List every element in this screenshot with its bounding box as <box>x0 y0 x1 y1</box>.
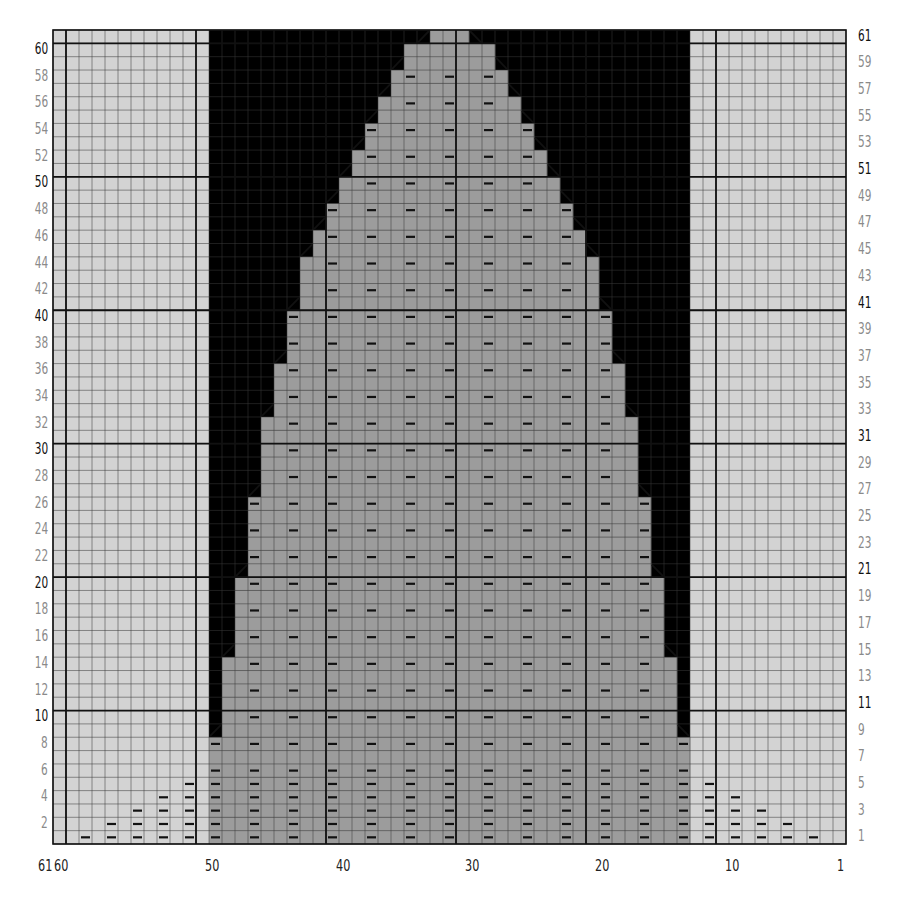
stitch-cell <box>508 350 521 364</box>
stitch-cell <box>664 831 677 845</box>
stitch-cell <box>391 244 404 258</box>
stitch-cell <box>521 163 534 177</box>
stitch-cell <box>378 244 391 258</box>
stitch-cell <box>352 617 365 631</box>
stitch-cell <box>326 751 339 765</box>
stitch-cell <box>521 457 534 471</box>
stitch-cell <box>235 791 248 805</box>
stitch-cell <box>339 644 352 658</box>
stitch-cell <box>261 657 274 671</box>
stitch-cell <box>430 324 443 338</box>
stitch-cell <box>326 324 339 338</box>
stitch-cell <box>573 284 586 298</box>
row-label-left: 60 <box>35 42 48 57</box>
stitch-cell <box>573 524 586 538</box>
stitch-cell <box>417 831 430 845</box>
stitch-cell <box>417 150 430 164</box>
stitch-cell <box>469 697 482 711</box>
stitch-cell <box>508 257 521 271</box>
stitch-cell <box>612 684 625 698</box>
stitch-cell <box>469 590 482 604</box>
stitch-cell <box>430 497 443 511</box>
stitch-cell <box>586 497 599 511</box>
stitch-cell <box>378 444 391 458</box>
stitch-cell <box>391 777 404 791</box>
stitch-cell <box>339 737 352 751</box>
stitch-cell <box>534 404 547 418</box>
stitch-cell <box>573 777 586 791</box>
stitch-cell <box>274 697 287 711</box>
stitch-cell <box>365 671 378 685</box>
stitch-cell <box>612 417 625 431</box>
stitch-cell <box>391 604 404 618</box>
stitch-cell <box>404 404 417 418</box>
stitch-cell <box>430 70 443 84</box>
stitch-cell <box>573 831 586 845</box>
stitch-cell <box>378 230 391 244</box>
stitch-cell <box>508 337 521 351</box>
stitch-cell <box>378 457 391 471</box>
stitch-cell <box>430 470 443 484</box>
stitch-cell <box>547 564 560 578</box>
stitch-cell <box>352 684 365 698</box>
stitch-cell <box>482 297 495 311</box>
stitch-cell <box>261 791 274 805</box>
stitch-cell <box>495 163 508 177</box>
stitch-cell <box>534 257 547 271</box>
stitch-cell <box>326 377 339 391</box>
stitch-cell <box>326 671 339 685</box>
stitch-cell <box>456 791 469 805</box>
stitch-cell <box>300 257 313 271</box>
stitch-cell <box>573 617 586 631</box>
stitch-cell <box>612 764 625 778</box>
stitch-cell <box>456 137 469 151</box>
stitch-cell <box>469 390 482 404</box>
stitch-cell <box>261 697 274 711</box>
stitch-cell <box>300 804 313 818</box>
stitch-cell <box>378 470 391 484</box>
stitch-cell <box>417 537 430 551</box>
stitch-cell <box>586 377 599 391</box>
stitch-cell <box>391 577 404 591</box>
stitch-cell <box>365 377 378 391</box>
stitch-cell <box>482 430 495 444</box>
stitch-cell <box>443 644 456 658</box>
stitch-cell <box>430 97 443 111</box>
stitch-cell <box>612 737 625 751</box>
stitch-cell <box>469 190 482 204</box>
stitch-cell <box>235 617 248 631</box>
stitch-cell <box>456 564 469 578</box>
column-label: 10 <box>725 858 739 874</box>
stitch-cell <box>313 630 326 644</box>
stitch-cell <box>326 644 339 658</box>
stitch-cell <box>339 751 352 765</box>
stitch-cell <box>547 697 560 711</box>
stitch-cell <box>339 177 352 191</box>
row-label-right: 57 <box>858 82 871 97</box>
stitch-cell <box>352 711 365 725</box>
stitch-cell <box>287 590 300 604</box>
stitch-cell <box>313 577 326 591</box>
stitch-cell <box>599 564 612 578</box>
stitch-cell <box>495 724 508 738</box>
stitch-cell <box>651 751 664 765</box>
stitch-cell <box>339 537 352 551</box>
stitch-cell <box>456 377 469 391</box>
stitch-cell <box>352 537 365 551</box>
stitch-cell <box>430 817 443 831</box>
stitch-cell <box>430 163 443 177</box>
stitch-cell <box>612 457 625 471</box>
stitch-cell <box>235 804 248 818</box>
stitch-cell <box>430 417 443 431</box>
stitch-cell <box>586 657 599 671</box>
stitch-cell <box>508 764 521 778</box>
stitch-cell <box>521 751 534 765</box>
stitch-cell <box>274 644 287 658</box>
stitch-cell <box>443 430 456 444</box>
stitch-cell <box>456 777 469 791</box>
stitch-cell <box>313 617 326 631</box>
stitch-cell <box>443 190 456 204</box>
stitch-cell <box>508 604 521 618</box>
stitch-cell <box>365 324 378 338</box>
stitch-cell <box>300 497 313 511</box>
